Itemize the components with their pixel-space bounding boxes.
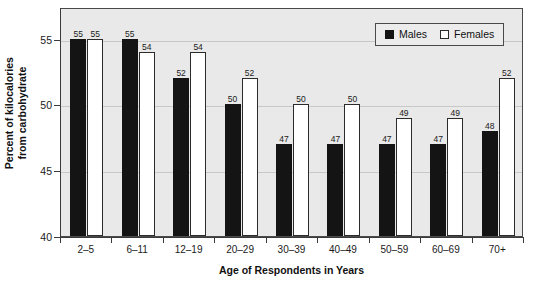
bar-value-label-females-60–69: 49: [441, 109, 469, 118]
x-tick-8: [472, 238, 473, 243]
x-tick-label-40–49: 40–49: [317, 245, 368, 255]
bar-females-50–59: [396, 118, 412, 236]
x-tick-label-30–39: 30–39: [266, 245, 317, 255]
bar-males-60–69: [430, 144, 446, 236]
x-tick-label-6–11: 6–11: [111, 245, 162, 255]
y-axis-line: [60, 8, 61, 238]
bar-males-70+: [482, 131, 498, 236]
x-tick-4: [266, 238, 267, 243]
x-tick-label-2–5: 2–5: [60, 245, 111, 255]
bar-value-label-females-20–29: 52: [236, 69, 264, 78]
x-axis-title: Age of Respondents in Years: [60, 264, 523, 276]
x-tick-label-20–29: 20–29: [214, 245, 265, 255]
legend-item-females: Females: [440, 29, 494, 40]
x-tick-7: [420, 238, 421, 243]
bar-males-30–39: [276, 144, 292, 236]
bar-value-label-females-40–49: 50: [338, 95, 366, 104]
y-axis-title-line-1: Percent of kilocalories: [3, 57, 15, 169]
x-tick-label-70+: 70+: [472, 245, 523, 255]
bar-females-20–29: [242, 78, 258, 236]
x-tick-label-60–69: 60–69: [420, 245, 471, 255]
x-tick-end: [523, 238, 524, 243]
y-tick-45: [54, 171, 60, 172]
legend-swatch-open-square-icon: [440, 30, 449, 39]
x-axis-line: [60, 237, 524, 238]
x-tick-6: [369, 238, 370, 243]
bar-females-30–39: [293, 104, 309, 236]
chart-legend: MalesFemales: [375, 23, 504, 46]
legend-item-males: Males: [385, 29, 427, 40]
bar-value-label-females-30–39: 50: [287, 95, 315, 104]
bar-value-label-females-70+: 52: [493, 69, 521, 78]
y-tick-50: [54, 105, 60, 106]
bar-females-2–5: [87, 39, 103, 236]
y-tick-label-45: 45: [28, 166, 52, 177]
bar-value-label-females-2–5: 55: [81, 30, 109, 39]
bar-males-20–29: [225, 104, 241, 236]
bar-males-12–19: [173, 78, 189, 236]
legend-label-females: Females: [454, 29, 494, 40]
y-tick-label-40: 40: [28, 232, 52, 243]
y-axis-title: Percent of kilocalories from carbohydrat…: [3, 28, 29, 198]
bar-females-12–19: [190, 52, 206, 236]
bar-males-40–49: [327, 144, 343, 236]
bar-males-6–11: [122, 39, 138, 236]
bar-females-6–11: [139, 52, 155, 236]
bar-value-label-females-12–19: 54: [184, 43, 212, 52]
x-tick-2: [163, 238, 164, 243]
legend-label-males: Males: [399, 29, 427, 40]
bar-females-60–69: [447, 118, 463, 236]
y-tick-55: [54, 40, 60, 41]
x-tick-1: [111, 238, 112, 243]
x-tick-label-12–19: 12–19: [163, 245, 214, 255]
x-tick-label-50–59: 50–59: [369, 245, 420, 255]
bar-females-40–49: [344, 104, 360, 236]
y-tick-label-50: 50: [28, 100, 52, 111]
bar-value-label-females-6–11: 54: [133, 43, 161, 52]
y-tick-label-55: 55: [28, 35, 52, 46]
x-tick-5: [317, 238, 318, 243]
legend-swatch-filled-square-icon: [385, 30, 394, 39]
bar-value-label-females-50–59: 49: [390, 109, 418, 118]
y-axis-title-line-2: from carbohydrate: [16, 67, 28, 160]
chart-figure: 555555545254505247504750474947494852 404…: [0, 0, 538, 287]
x-tick-0: [60, 238, 61, 243]
bar-females-70+: [499, 78, 515, 236]
x-tick-3: [214, 238, 215, 243]
bar-value-label-males-6–11: 55: [116, 30, 144, 39]
bar-males-50–59: [379, 144, 395, 236]
bar-males-2–5: [70, 39, 86, 236]
